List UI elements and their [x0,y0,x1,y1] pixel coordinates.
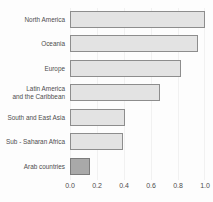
x-axis-tick-labels: 0.0 0.2 0.4 0.6 0.8 1.0 [70,182,205,196]
bar-row [70,8,205,32]
category-label: Europe [44,65,68,73]
bar [70,35,198,52]
category-label-row: Sub - Saharan Africa [0,130,68,154]
bar-row [70,106,205,130]
bar-row [70,57,205,81]
bar-row [70,81,205,105]
bar [70,84,160,101]
category-axis-labels: North America Oceania Europe Latin Ameri… [0,8,68,180]
category-label-row: Europe [0,57,68,81]
category-label: Oceania [41,40,68,48]
x-tick-label: 0.6 [146,182,156,189]
category-label: Arab countries [24,163,68,171]
category-label-row: Oceania [0,32,68,56]
category-label-row: Latin America and the Caribbean [0,81,68,105]
x-tick-label: 0.4 [119,182,129,189]
category-label-row: South and East Asia [0,106,68,130]
bar [70,158,90,175]
x-tick-label: 0.2 [92,182,102,189]
category-label: North America [25,16,69,24]
x-tick-label: 0.8 [173,182,183,189]
bar [70,133,123,150]
x-tick-label: 1.0 [200,182,210,189]
bar [70,60,181,77]
bar-chart: North America Oceania Europe Latin Ameri… [0,0,213,202]
bar-row [70,155,205,179]
bar [70,11,205,28]
category-label: South and East Asia [7,114,68,122]
category-label: Sub - Saharan Africa [6,138,68,146]
plot-area [70,8,205,180]
x-tick-label: 0.0 [65,182,75,189]
bar-row [70,130,205,154]
bar-row [70,32,205,56]
category-label: Latin America and the Caribbean [12,85,68,101]
category-label-row: North America [0,8,68,32]
category-label-row: Arab countries [0,155,68,179]
bar [70,109,125,126]
